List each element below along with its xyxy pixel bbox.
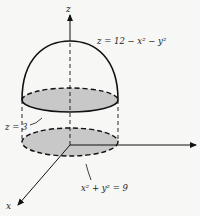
plane-label-leader [30, 118, 42, 125]
region-label-leader [86, 164, 91, 180]
x-axis-label: x [6, 201, 11, 211]
z-axis-label: z [65, 4, 71, 14]
surface-label: z = 12 − x² − y² [96, 36, 167, 46]
region-label: x² + y² = 9 [81, 183, 128, 193]
x-axis [18, 145, 70, 205]
plane-label: z = 3 [4, 122, 27, 132]
diagram-canvas: z z = 12 − x² − y² z = 3 x² + y² = 9 x [0, 0, 200, 216]
